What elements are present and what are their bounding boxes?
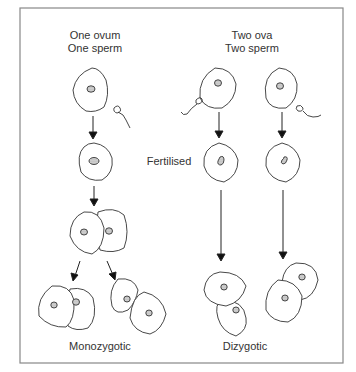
header-line: Two sperm — [207, 42, 297, 55]
sperm-icon — [114, 106, 130, 128]
header-line: Two ova — [207, 29, 297, 42]
sperm-icon — [296, 105, 321, 117]
arrow — [75, 261, 80, 276]
monozygotic-label: Monozygotic — [60, 340, 140, 353]
dizygotic-label: Dizygotic — [205, 340, 285, 353]
left-header: One ovum One sperm — [55, 29, 135, 55]
header-line: One sperm — [55, 42, 135, 55]
nucleus — [87, 86, 95, 92]
twin-formation-diagram — [0, 0, 356, 372]
fertilised-label: Fertilised — [134, 155, 204, 168]
sperm-icon — [181, 98, 202, 115]
right-header: Two ova Two sperm — [207, 29, 297, 55]
header-line: One ovum — [55, 29, 135, 42]
ovum-cell-a — [200, 68, 236, 108]
